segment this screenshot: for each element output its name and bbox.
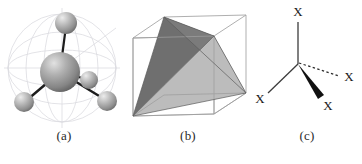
substituent-label-wedge: X — [323, 98, 333, 113]
substituent-label-up: X — [293, 4, 303, 19]
caption-b: (b) — [122, 128, 254, 144]
ball-and-stick-model — [0, 0, 128, 128]
ligand-atom-lower-left — [14, 92, 34, 112]
panel-b: (b) — [122, 0, 254, 164]
tetrahedron-in-cube — [122, 0, 254, 128]
bond-lower-left-plain — [268, 64, 298, 93]
wedge-dash-diagram: X X X X — [252, 0, 362, 128]
bond-lower-right-wedge — [298, 64, 324, 99]
ligand-atom-top — [55, 12, 77, 34]
panel-c: X X X X (c) — [252, 0, 362, 164]
caption-c: (c) — [252, 128, 362, 144]
ligand-atom-lower-right — [97, 91, 117, 111]
tetrahedron-faces — [133, 17, 246, 116]
substituent-label-dashed: X — [344, 69, 354, 84]
central-atom — [40, 52, 80, 92]
ligand-atom-front — [80, 71, 98, 89]
panel-a: (a) — [0, 0, 128, 164]
substituent-label-lower-left: X — [255, 91, 265, 106]
figure-container: (a) — [0, 0, 362, 164]
caption-a: (a) — [0, 128, 128, 144]
